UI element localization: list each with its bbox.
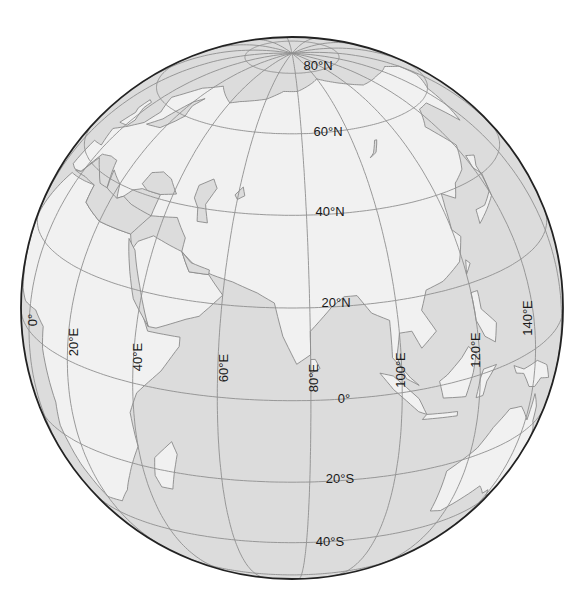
lat-label-20s: 20°S [326, 471, 355, 486]
lat-label-equator: 0° [338, 391, 350, 406]
lat-label-40n: 40°N [315, 204, 344, 219]
lat-label-40s: 40°S [316, 534, 345, 549]
lon-label-120e: 120°E [468, 332, 483, 368]
lon-label-80e: 80°E [306, 364, 321, 393]
globe-map: 80°N 60°N 40°N 20°N 0° 20°S 40°S 0° 20°E… [0, 0, 580, 591]
lat-label-20n: 20°N [321, 295, 350, 310]
lon-label-40e: 40°E [130, 343, 145, 372]
lat-label-60n: 60°N [313, 124, 342, 139]
lon-label-140e: 140°E [520, 300, 535, 336]
lon-label-0: 0° [25, 314, 40, 326]
lon-label-20e: 20°E [66, 328, 81, 357]
lon-label-60e: 60°E [216, 354, 231, 383]
lon-label-100e: 100°E [393, 352, 408, 388]
lat-label-80n: 80°N [303, 58, 332, 73]
